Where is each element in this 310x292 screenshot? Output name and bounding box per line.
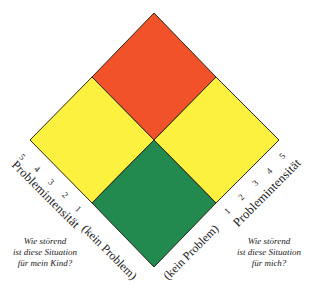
left-question-line-2: ist diese Situation bbox=[4, 247, 86, 258]
right-question-line-3: für mich? bbox=[228, 258, 310, 269]
left-question-line-3: für mein Kind? bbox=[4, 258, 86, 269]
left-question: Wie störend ist diese Situation für mein… bbox=[4, 236, 86, 269]
right-question: Wie störend ist diese Situation für mich… bbox=[228, 236, 310, 269]
left-question-line-1: Wie störend bbox=[4, 236, 86, 247]
right-question-line-1: Wie störend bbox=[228, 236, 310, 247]
problem-intensity-diagram: 5 4 3 2 1 Problemintensität 1 2 3 4 5 Pr… bbox=[0, 0, 310, 292]
right-question-line-2: ist diese Situation bbox=[228, 247, 310, 258]
